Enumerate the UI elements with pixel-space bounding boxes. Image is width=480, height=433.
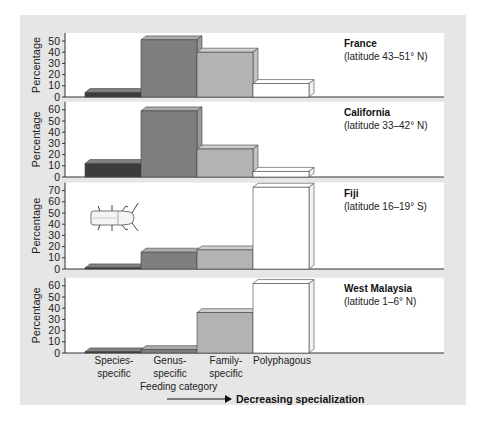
y-tick-label: 40 bbox=[48, 302, 60, 314]
y-tick-label: 10 bbox=[48, 159, 60, 171]
bar-genus-specific bbox=[141, 346, 202, 353]
y-tick-label: 50 bbox=[48, 291, 60, 303]
region-latitude: (latitude 33–42° N) bbox=[344, 120, 428, 131]
panel-west-malaysia: 0102030405060PercentageWest Malaysia(lat… bbox=[30, 278, 444, 359]
bar-front-face bbox=[85, 352, 141, 353]
bar-top-face bbox=[141, 36, 202, 40]
bar-front-face bbox=[253, 187, 309, 269]
bar-front-face bbox=[85, 268, 141, 269]
y-tick-label: 30 bbox=[48, 229, 60, 241]
y-tick-label: 30 bbox=[48, 313, 60, 325]
bar-genus-specific bbox=[141, 107, 202, 177]
y-tick-label: 30 bbox=[48, 57, 60, 69]
y-tick-label: 40 bbox=[48, 46, 60, 58]
bar-front-face bbox=[253, 84, 309, 97]
y-axis-label: Percentage bbox=[30, 111, 42, 167]
bar-polyphagous bbox=[253, 280, 314, 353]
bar-front-face bbox=[197, 313, 253, 353]
bar-front-face bbox=[253, 171, 309, 177]
bar-side-face bbox=[309, 280, 314, 353]
bar-front-face bbox=[141, 40, 197, 97]
y-tick-label: 50 bbox=[48, 35, 60, 47]
category-label: specific bbox=[153, 368, 186, 379]
trend-arrow-head bbox=[225, 395, 232, 403]
region-latitude: (latitude 1–6° N) bbox=[344, 296, 416, 307]
category-label: specific bbox=[209, 368, 242, 379]
category-label: specific bbox=[97, 368, 130, 379]
bar-front-face bbox=[197, 52, 253, 97]
y-tick-label: 10 bbox=[48, 335, 60, 347]
y-tick-label: 40 bbox=[48, 218, 60, 230]
bar-top-face bbox=[197, 48, 258, 52]
y-tick-label: 0 bbox=[54, 347, 60, 359]
y-tick-label: 50 bbox=[48, 207, 60, 219]
bar-top-face bbox=[85, 348, 146, 352]
bar-top-face bbox=[197, 145, 258, 149]
y-tick-label: 50 bbox=[48, 115, 60, 127]
bar-top-face bbox=[253, 183, 314, 187]
x-axis-label: Feeding category bbox=[140, 381, 217, 392]
bar-polyphagous bbox=[253, 167, 314, 177]
panel-france: 01020304050PercentageFrance(latitude 43–… bbox=[30, 33, 444, 103]
bar-family-specific bbox=[197, 145, 258, 177]
region-name: West Malaysia bbox=[344, 283, 413, 294]
bar-family-specific bbox=[197, 246, 258, 269]
bar-side-face bbox=[309, 183, 314, 269]
bar-top-face bbox=[85, 160, 146, 164]
y-tick-label: 0 bbox=[54, 171, 60, 183]
category-label: Family- bbox=[210, 355, 243, 366]
bar-front-face bbox=[141, 350, 197, 353]
bar-species-specific bbox=[85, 348, 146, 353]
y-tick-label: 30 bbox=[48, 137, 60, 149]
bar-top-face bbox=[141, 248, 202, 252]
panel-fiji: 010203040506070PercentageFiji(latitude 1… bbox=[30, 183, 444, 275]
y-tick-label: 20 bbox=[48, 240, 60, 252]
y-tick-label: 20 bbox=[48, 148, 60, 160]
y-tick-label: 10 bbox=[48, 251, 60, 263]
y-tick-label: 20 bbox=[48, 68, 60, 80]
bar-polyphagous bbox=[253, 183, 314, 269]
chart: 01020304050PercentageFrance(latitude 43–… bbox=[0, 0, 480, 433]
region-name: California bbox=[344, 107, 391, 118]
region-name: Fiji bbox=[344, 188, 359, 199]
bar-front-face bbox=[85, 93, 141, 97]
y-tick-label: 60 bbox=[48, 279, 60, 291]
region-name: France bbox=[344, 38, 377, 49]
bar-top-face bbox=[253, 80, 314, 84]
category-label: Genus- bbox=[154, 355, 187, 366]
bar-species-specific bbox=[85, 160, 146, 177]
bar-family-specific bbox=[197, 309, 258, 353]
panel-california: 0102030405060PercentageCalifornia(latitu… bbox=[30, 102, 444, 183]
bar-polyphagous bbox=[253, 80, 314, 97]
bar-front-face bbox=[141, 252, 197, 269]
bar-species-specific bbox=[85, 264, 146, 269]
y-tick-label: 70 bbox=[48, 184, 60, 196]
trend-label: Decreasing specialization bbox=[236, 393, 364, 405]
bar-genus-specific bbox=[141, 248, 202, 269]
bar-top-face bbox=[141, 346, 202, 350]
y-tick-label: 0 bbox=[54, 263, 60, 275]
bar-front-face bbox=[141, 111, 197, 177]
bar-top-face bbox=[141, 107, 202, 111]
bar-top-face bbox=[253, 280, 314, 284]
bar-front-face bbox=[197, 250, 253, 269]
bar-top-face bbox=[197, 309, 258, 313]
y-tick-label: 60 bbox=[48, 195, 60, 207]
y-tick-label: 40 bbox=[48, 126, 60, 138]
bar-family-specific bbox=[197, 48, 258, 97]
region-latitude: (latitude 16–19° S) bbox=[344, 201, 427, 212]
bar-front-face bbox=[197, 149, 253, 177]
bar-front-face bbox=[253, 284, 309, 353]
y-tick-label: 10 bbox=[48, 79, 60, 91]
bar-top-face bbox=[197, 246, 258, 250]
bar-species-specific bbox=[85, 89, 146, 97]
category-label: Species- bbox=[95, 355, 134, 366]
bar-front-face bbox=[85, 164, 141, 177]
y-tick-label: 20 bbox=[48, 324, 60, 336]
y-axis-label: Percentage bbox=[30, 287, 42, 343]
y-tick-label: 0 bbox=[54, 91, 60, 103]
y-axis-label: Percentage bbox=[30, 198, 42, 254]
y-tick-label: 60 bbox=[48, 103, 60, 115]
y-axis-label: Percentage bbox=[30, 37, 42, 93]
bar-genus-specific bbox=[141, 36, 202, 97]
